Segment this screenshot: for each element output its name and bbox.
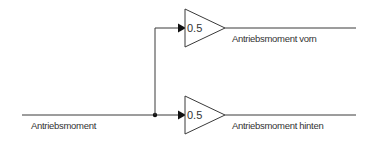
gain-value-front: 0.5 <box>187 22 202 34</box>
gain-block-front[interactable]: 0.5 <box>185 9 225 47</box>
gain-value-rear: 0.5 <box>187 109 202 121</box>
rear-output-signal-label: Antriebsmoment hinten <box>232 120 323 131</box>
input-signal-label: Antriebsmoment <box>31 120 97 131</box>
gain-block-rear[interactable]: 0.5 <box>185 96 225 134</box>
block-diagram-canvas: 0.5 0.5 Antriebsmoment Antriebsmoment vo… <box>0 0 376 148</box>
front-output-signal-label: Antriebsmoment vorn <box>232 33 317 44</box>
